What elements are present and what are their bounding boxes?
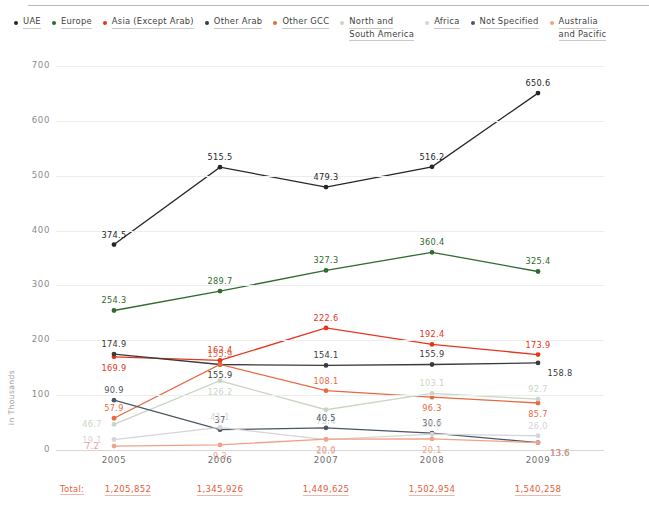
data-point-label: 155.9 [207, 370, 232, 380]
legend-item-other-gcc[interactable]: Other GCC [273, 16, 329, 29]
data-point-label: 360.4 [419, 237, 444, 247]
data-point-label: 92.7 [528, 384, 548, 394]
data-point-label: 479.3 [313, 172, 338, 182]
legend-item-label: Europe [61, 16, 92, 29]
series-line-other-arab [114, 93, 538, 244]
legend-item-australia-and-pacific[interactable]: Australiaand Pacific [550, 16, 607, 41]
data-point-marker[interactable] [536, 91, 541, 96]
data-point-marker[interactable] [324, 268, 329, 273]
data-point-marker[interactable] [324, 185, 329, 190]
data-point-marker[interactable] [430, 342, 435, 347]
data-point-label: 155.9 [207, 349, 232, 359]
y-axis-tick-100: 100 [4, 389, 50, 399]
data-point-label: 26.0 [528, 421, 548, 431]
data-point-marker[interactable] [112, 242, 117, 247]
data-point-marker[interactable] [112, 437, 117, 442]
y-axis-tick-0: 0 [4, 444, 50, 454]
data-point-marker[interactable] [430, 432, 435, 437]
data-point-marker[interactable] [324, 437, 329, 442]
total-value-2005: 1,205,852 [105, 484, 151, 496]
data-point-label: 20.1 [422, 445, 442, 455]
data-point-label: 28.9 [422, 419, 442, 429]
legend-item-not-specified[interactable]: Not Specified [471, 16, 539, 29]
data-point-marker[interactable] [218, 289, 223, 294]
gridline-300 [56, 285, 604, 286]
legend-item-label: Asia (Except Arab) [112, 16, 194, 29]
data-point-marker[interactable] [536, 433, 541, 438]
y-axis-tick-300: 300 [4, 279, 50, 289]
data-point-marker[interactable] [112, 444, 117, 449]
legend-marker-icon [52, 21, 56, 25]
legend-item-asia-except-arab[interactable]: Asia (Except Arab) [103, 16, 194, 29]
data-point-label: 90.9 [104, 385, 124, 395]
total-value-2006: 1,345,926 [197, 484, 243, 496]
data-point-marker[interactable] [218, 165, 223, 170]
legend-item-label: Australiaand Pacific [559, 16, 607, 41]
x-axis-tick-2007: 2007 [314, 455, 339, 465]
data-point-label: 169.9 [101, 363, 126, 373]
data-point-label: 41.1 [210, 412, 230, 422]
x-axis-labels: 20052006200720082009 [0, 455, 617, 471]
data-point-marker[interactable] [324, 325, 329, 330]
gridline-100 [56, 395, 604, 396]
legend-marker-icon [425, 21, 429, 25]
total-value-2008: 1,502,954 [409, 484, 455, 496]
y-axis-tick-400: 400 [4, 225, 50, 235]
data-point-label: 154.1 [313, 350, 338, 360]
data-point-label: 108.1 [313, 376, 338, 386]
data-point-marker[interactable] [112, 308, 117, 313]
data-point-marker[interactable] [112, 416, 117, 421]
legend-item-uae[interactable]: UAE [14, 16, 41, 29]
legend-item-label: Other GCC [282, 16, 329, 29]
data-point-label: 46.7 [82, 419, 102, 429]
data-point-label: 174.9 [101, 339, 126, 349]
data-point-marker[interactable] [324, 425, 329, 430]
legend-marker-icon [550, 21, 554, 25]
data-point-marker[interactable] [536, 352, 541, 357]
data-point-marker[interactable] [218, 442, 223, 447]
legend-item-other-arab[interactable]: Other Arab [205, 16, 263, 29]
data-point-marker[interactable] [112, 398, 117, 403]
data-point-marker[interactable] [430, 250, 435, 255]
data-point-marker[interactable] [536, 440, 541, 445]
data-point-marker[interactable] [430, 362, 435, 367]
data-point-label: 325.4 [525, 256, 550, 266]
legend-item-africa[interactable]: Africa [425, 16, 459, 29]
data-point-marker[interactable] [324, 363, 329, 368]
y-axis-tick-500: 500 [4, 170, 50, 180]
y-axis-tick-200: 200 [4, 334, 50, 344]
data-point-label: 289.7 [207, 276, 232, 286]
data-point-label: 222.6 [313, 313, 338, 323]
total-value-2007: 1,449,625 [303, 484, 349, 496]
data-point-marker[interactable] [430, 164, 435, 169]
data-point-label: 155.9 [419, 349, 444, 359]
data-point-marker[interactable] [218, 362, 223, 367]
data-point-marker[interactable] [536, 360, 541, 365]
legend-item-europe[interactable]: Europe [52, 16, 92, 29]
data-point-label: 126.2 [207, 387, 232, 397]
data-point-marker[interactable] [218, 425, 223, 430]
gridline-600 [56, 121, 604, 122]
legend-item-label: Other Arab [214, 16, 263, 29]
data-point-marker[interactable] [536, 397, 541, 402]
data-point-label: 40.5 [316, 413, 336, 423]
data-point-label: 516.2 [419, 152, 444, 162]
data-point-marker[interactable] [324, 407, 329, 412]
legend-marker-icon [340, 21, 344, 25]
data-point-marker[interactable] [112, 352, 117, 357]
total-value-2009: 1,540,258 [515, 484, 561, 496]
data-point-marker[interactable] [430, 437, 435, 442]
legend-item-north-and-south-america[interactable]: North andSouth America [340, 16, 414, 41]
data-point-label: 57.9 [104, 403, 124, 413]
data-point-marker[interactable] [112, 422, 117, 427]
data-point-marker[interactable] [324, 388, 329, 393]
gridline-400 [56, 231, 604, 232]
data-point-label: 7.2 [85, 441, 99, 451]
legend-marker-icon [103, 21, 107, 25]
y-axis-tick-700: 700 [4, 60, 50, 70]
plot-area: in Thousands 7006005004003002001000374.5… [0, 48, 617, 460]
y-axis-tick-600: 600 [4, 115, 50, 125]
data-point-marker[interactable] [536, 269, 541, 274]
totals-row: Total:1,205,8521,345,9261,449,6251,502,9… [0, 484, 617, 502]
data-point-label: 192.4 [419, 329, 444, 339]
